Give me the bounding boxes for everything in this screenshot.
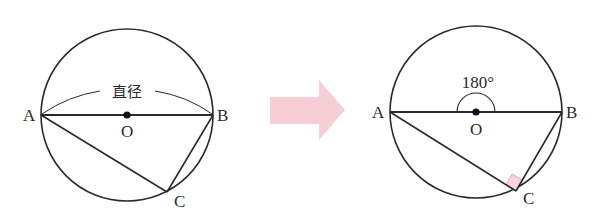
left-center-dot xyxy=(123,111,130,118)
left-chord-ac xyxy=(41,115,167,192)
angle-label: 180° xyxy=(462,73,494,92)
right-chord-bc xyxy=(516,112,562,191)
right-label-b: B xyxy=(566,103,577,122)
right-label-o: O xyxy=(470,120,482,139)
left-label-a: A xyxy=(23,106,36,125)
diagram-canvas: 直径 A B O C 180° A B O C xyxy=(0,0,599,223)
right-chord-ac xyxy=(390,112,516,191)
right-center-dot xyxy=(472,108,479,115)
right-angle-marker xyxy=(506,174,522,191)
right-label-c: C xyxy=(523,189,534,208)
left-label-o: O xyxy=(121,122,133,141)
right-figure: 180° A B O C xyxy=(372,26,577,208)
diameter-label: 直径 xyxy=(112,83,142,101)
transition-arrow-icon xyxy=(270,80,345,140)
left-label-b: B xyxy=(217,106,228,125)
left-diameter-arc-right xyxy=(155,91,212,114)
left-diameter-arc xyxy=(42,91,100,114)
left-chord-bc xyxy=(167,115,213,192)
left-figure: 直径 A B O C xyxy=(23,29,228,211)
right-label-a: A xyxy=(372,103,385,122)
left-label-c: C xyxy=(174,192,185,211)
